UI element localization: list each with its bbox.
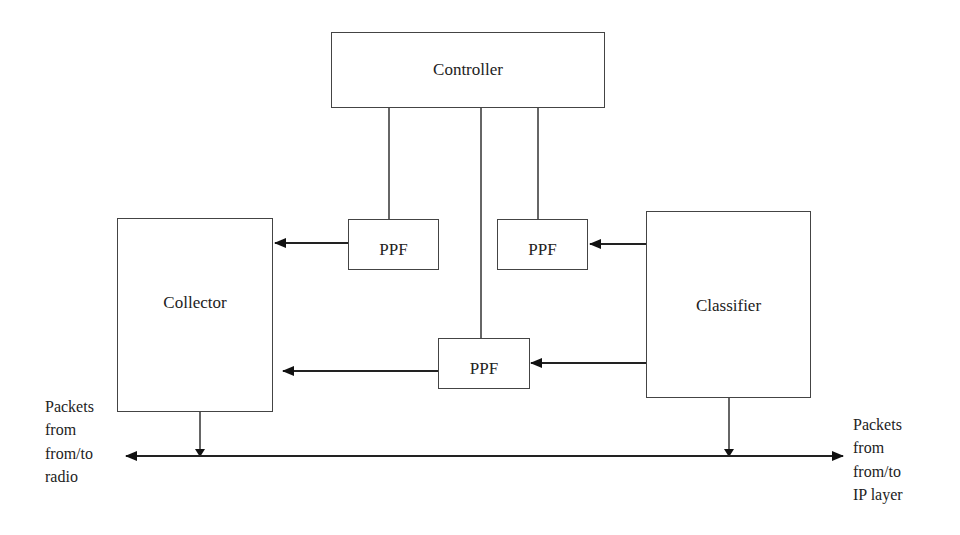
collector-box: Collector [117, 218, 273, 412]
ip-layer-annotation-line: from [853, 436, 903, 459]
radio-annotation-line: Packets [45, 395, 94, 418]
ppf-top-right-box: PPF [497, 219, 588, 270]
classifier-box: Classifier [646, 211, 811, 398]
ppf-top-right-label: PPF [528, 240, 556, 260]
radio-annotation: Packets from from/to radio [45, 395, 94, 488]
ip-layer-annotation-line: Packets [853, 413, 903, 436]
collector-label: Collector [163, 293, 226, 313]
radio-annotation-line: from/to [45, 442, 94, 465]
ppf-middle-label: PPF [470, 359, 498, 379]
controller-box: Controller [331, 32, 605, 108]
controller-label: Controller [433, 60, 503, 80]
radio-annotation-line: from [45, 418, 94, 441]
ppf-top-left-box: PPF [348, 219, 439, 270]
ip-layer-annotation-line: IP layer [853, 483, 903, 506]
ppf-top-left-label: PPF [379, 240, 407, 260]
ppf-middle-box: PPF [438, 338, 530, 389]
ip-layer-annotation-line: from/to [853, 460, 903, 483]
classifier-label: Classifier [696, 296, 761, 316]
radio-annotation-line: radio [45, 465, 94, 488]
ip-layer-annotation: Packets from from/to IP layer [853, 413, 903, 506]
